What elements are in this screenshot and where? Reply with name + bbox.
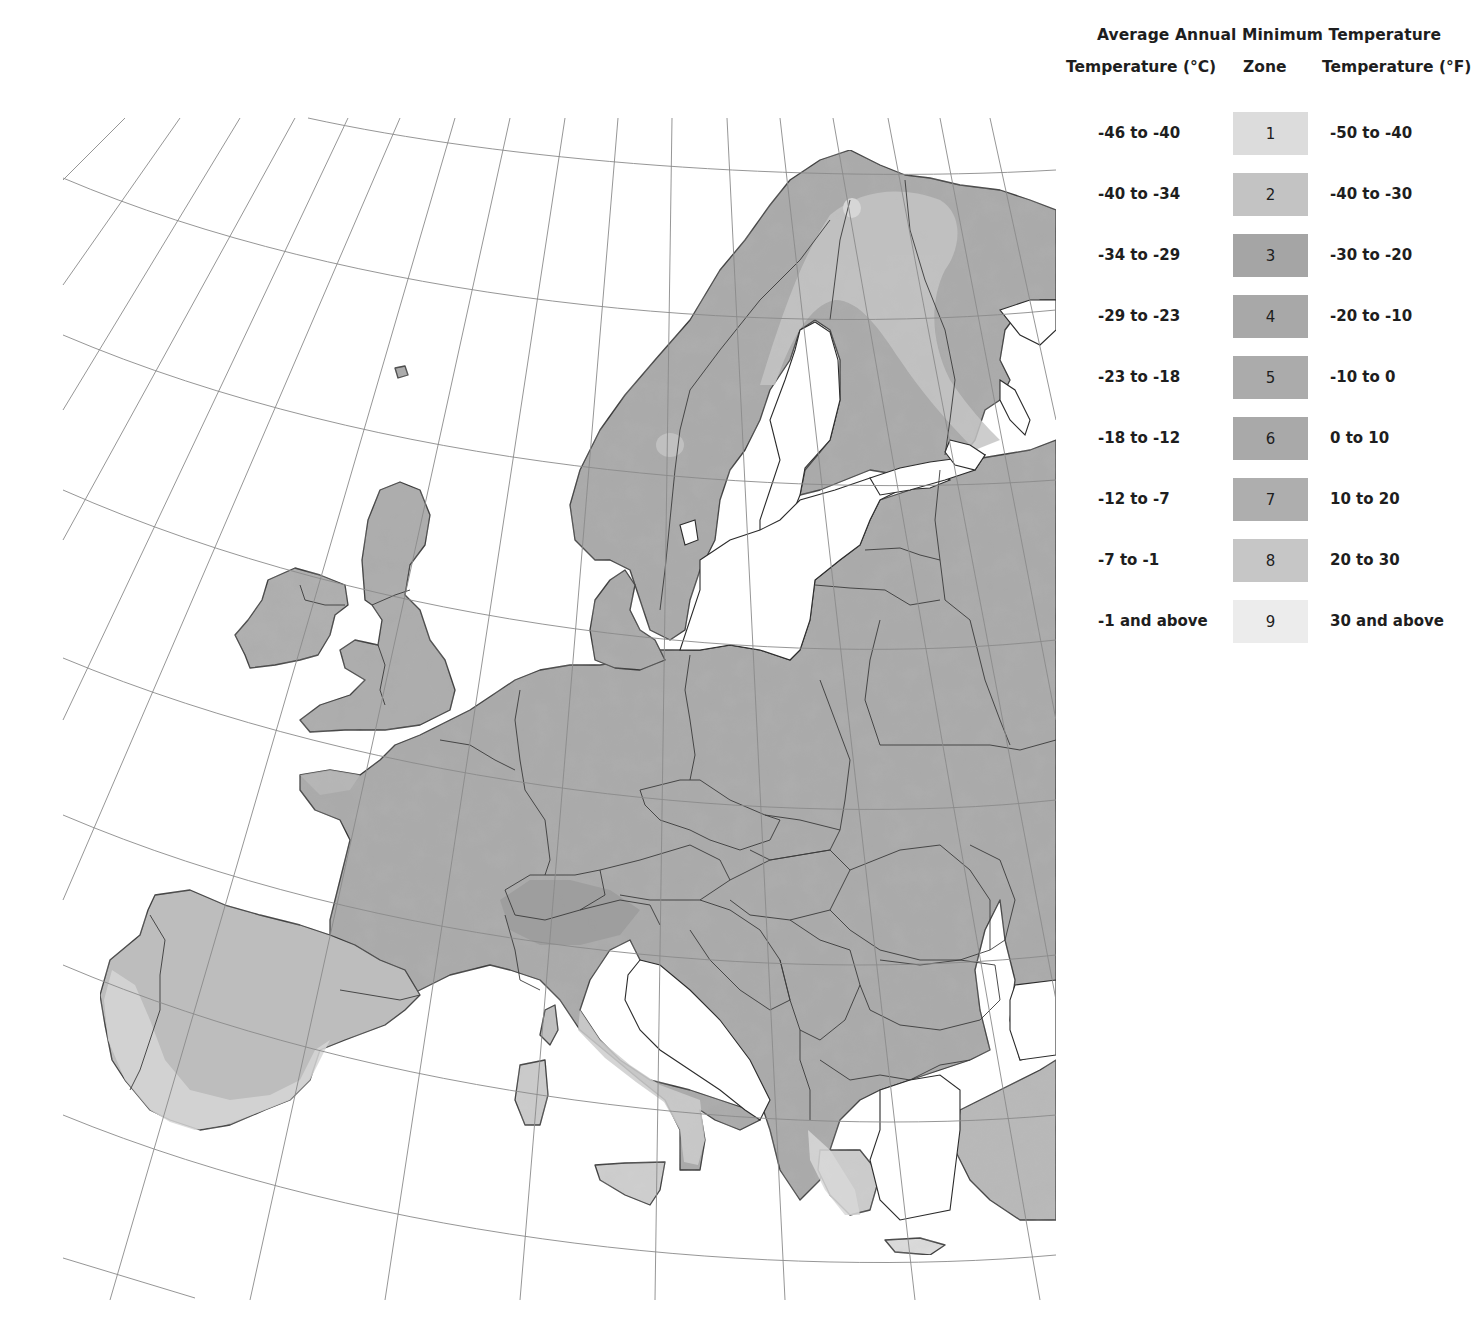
meridian-4 [63, 118, 295, 540]
land-crete [885, 1238, 945, 1255]
zone-swatch: 4 [1233, 295, 1308, 338]
black-sea [1010, 980, 1056, 1060]
parallel-30 [63, 1258, 195, 1298]
fahrenheit-range: 20 to 30 [1330, 551, 1400, 569]
legend-row-zone-1: -46 to -40 1 -50 to -40 [1060, 112, 1475, 156]
celsius-range: -1 and above [1098, 612, 1208, 630]
zone-1-patch [843, 198, 861, 218]
land-ireland [235, 568, 348, 668]
map-canvas [0, 0, 1060, 1338]
celsius-range: -18 to -12 [1098, 429, 1180, 447]
celsius-range: -23 to -18 [1098, 368, 1180, 386]
zone-swatch: 6 [1233, 417, 1308, 460]
land-faroe-islands [395, 366, 408, 378]
legend-row-zone-7: -12 to -7 7 10 to 20 [1060, 478, 1475, 522]
celsius-range: -40 to -34 [1098, 185, 1180, 203]
land-anatolia [955, 1060, 1056, 1220]
legend-row-zone-8: -7 to -1 8 20 to 30 [1060, 539, 1475, 583]
legend-row-zone-6: -18 to -12 6 0 to 10 [1060, 417, 1475, 461]
zone-2-patch-norway [656, 433, 684, 457]
legend-row-zone-3: -34 to -29 3 -30 to -20 [1060, 234, 1475, 278]
land-sicily [595, 1162, 665, 1205]
parallel-70 [308, 118, 1056, 174]
celsius-range: -46 to -40 [1098, 124, 1180, 142]
aegean-sea [870, 1075, 960, 1220]
fahrenheit-range: 30 and above [1330, 612, 1444, 630]
land-sardinia [515, 1060, 548, 1125]
hardiness-zone-map [0, 0, 1060, 1338]
column-header-celsius: Temperature (°C) [1066, 58, 1216, 76]
zone-swatch: 9 [1233, 600, 1308, 643]
meridian-3 [63, 118, 240, 410]
fahrenheit-range: -30 to -20 [1330, 246, 1412, 264]
fahrenheit-range: -10 to 0 [1330, 368, 1395, 386]
zone-swatch: 2 [1233, 173, 1308, 216]
legend-row-zone-9: -1 and above 9 30 and above [1060, 600, 1475, 644]
zone-swatch: 5 [1233, 356, 1308, 399]
column-header-zone: Zone [1243, 58, 1286, 76]
fahrenheit-range: 10 to 20 [1330, 490, 1400, 508]
legend-title: Average Annual Minimum Temperature [1097, 26, 1441, 44]
zone-swatch: 1 [1233, 112, 1308, 155]
meridian-1 [63, 118, 125, 180]
celsius-range: -7 to -1 [1098, 551, 1159, 569]
fahrenheit-range: 0 to 10 [1330, 429, 1389, 447]
fahrenheit-range: -40 to -30 [1330, 185, 1412, 203]
lake-onega [1000, 380, 1030, 435]
zone-swatch: 3 [1233, 234, 1308, 277]
zone-swatch: 7 [1233, 478, 1308, 521]
fahrenheit-range: -20 to -10 [1330, 307, 1412, 325]
fahrenheit-range: -50 to -40 [1330, 124, 1412, 142]
meridian-2 [63, 118, 180, 285]
zone-swatch: 8 [1233, 539, 1308, 582]
legend-panel: Average Annual Minimum Temperature Tempe… [1060, 0, 1475, 700]
legend-row-zone-5: -23 to -18 5 -10 to 0 [1060, 356, 1475, 400]
column-header-fahrenheit: Temperature (°F) [1322, 58, 1471, 76]
celsius-range: -34 to -29 [1098, 246, 1180, 264]
legend-row-zone-4: -29 to -23 4 -20 to -10 [1060, 295, 1475, 339]
legend-row-zone-2: -40 to -34 2 -40 to -30 [1060, 173, 1475, 217]
celsius-range: -29 to -23 [1098, 307, 1180, 325]
celsius-range: -12 to -7 [1098, 490, 1170, 508]
